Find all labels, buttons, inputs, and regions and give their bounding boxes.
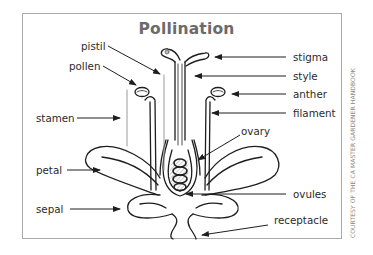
label-ovary: ovary [241,125,270,137]
label-style: style [293,70,318,82]
pistil-leader [108,46,160,74]
label-stamen: stamen [36,112,75,124]
credit-text: COURTESY OF THE CA MASTER GARDENER HANDB… [349,68,356,238]
left-petal [86,146,160,195]
ovary-shape [163,140,197,196]
label-anther: anther [293,88,327,100]
leader-lines [67,46,286,235]
label-pistil: pistil [81,40,106,52]
receptacle-leader [202,225,268,235]
label-petal: petal [36,164,62,176]
ovary-leader [198,135,240,160]
right-stamen-shape [205,88,225,191]
pollen-leader [103,66,136,85]
label-pollen: pollen [69,60,100,72]
label-filament: filament [293,107,336,119]
label-sepal: sepal [36,203,63,215]
left-stamen-shape [127,88,156,191]
diagram-title: Pollination [0,20,373,38]
label-stigma: stigma [293,51,328,63]
right-petal [205,146,279,195]
label-receptacle: receptacle [274,214,328,226]
style-shape [160,62,200,175]
label-ovules: ovules [293,188,326,200]
